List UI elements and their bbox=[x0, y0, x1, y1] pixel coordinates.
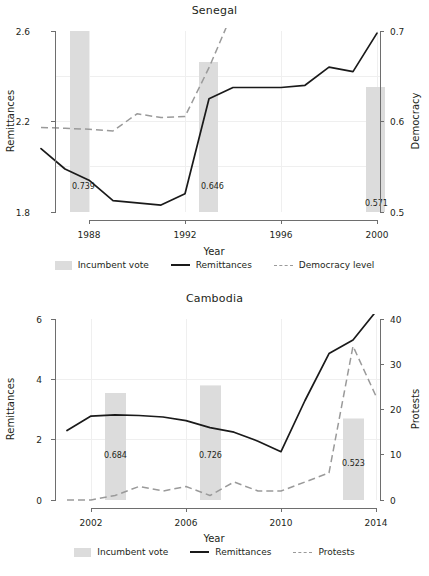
senegal-ytick2-0-5: 0.5 bbox=[390, 208, 404, 218]
panel-cambodia: Cambodia bbox=[0, 288, 429, 576]
legend-item-incumbent-vote: Incumbent vote bbox=[74, 547, 168, 557]
cambodia-xtick-2010: 2010 bbox=[270, 518, 293, 528]
legend-item-remittances: Remittances bbox=[171, 260, 252, 270]
dashed-line-swatch-icon bbox=[274, 265, 293, 266]
bar-2007 bbox=[200, 385, 221, 500]
cambodia-ytick-2: 2 bbox=[36, 435, 42, 445]
bar-label-2007: 0.726 bbox=[199, 451, 222, 460]
legend-label-remittances: Remittances bbox=[196, 260, 252, 270]
cambodia-legend: Incumbent vote Remittances Protests bbox=[0, 547, 429, 557]
senegal-xlabel: Year bbox=[202, 246, 225, 255]
cambodia-ytick-6: 6 bbox=[36, 315, 42, 325]
cambodia-xtick-2014: 2014 bbox=[365, 518, 388, 528]
bar-2003 bbox=[105, 393, 126, 500]
senegal-ytick2-0-6: 0.6 bbox=[390, 117, 405, 127]
legend-item-remittances: Remittances bbox=[190, 547, 271, 557]
dashed-line-swatch-icon bbox=[293, 552, 312, 553]
senegal-xtick-1996: 1996 bbox=[270, 230, 293, 240]
solid-line-swatch-icon bbox=[171, 264, 190, 266]
cambodia-ytick2-30: 30 bbox=[390, 360, 402, 370]
bar-swatch-icon bbox=[55, 261, 72, 270]
cambodia-ytick2-0: 0 bbox=[390, 496, 396, 506]
senegal-left-axis: 2.6 2.2 1.8 bbox=[16, 27, 55, 218]
figure-root: Senegal bbox=[0, 0, 429, 576]
legend-item-incumbent-vote: Incumbent vote bbox=[55, 260, 149, 270]
bar-label-1988: 0.739 bbox=[72, 182, 95, 191]
senegal-ytick-2-6: 2.6 bbox=[16, 27, 31, 37]
bar-label-2000: 0.571 bbox=[365, 199, 388, 208]
senegal-ylabel-right: Democracy bbox=[410, 92, 421, 149]
senegal-xtick-1988: 1988 bbox=[78, 230, 101, 240]
cambodia-incumbent-bars bbox=[105, 385, 364, 500]
legend-label-protests: Protests bbox=[318, 547, 354, 557]
legend-item-democracy-level: Democracy level bbox=[274, 260, 374, 270]
senegal-xtick-1992: 1992 bbox=[174, 230, 197, 240]
legend-label-democracy-level: Democracy level bbox=[299, 260, 374, 270]
bar-label-2013: 0.523 bbox=[342, 459, 365, 468]
legend-label-remittances: Remittances bbox=[215, 547, 271, 557]
cambodia-ylabel-right: Protests bbox=[410, 389, 421, 429]
legend-label-incumbent-vote: Incumbent vote bbox=[97, 547, 168, 557]
cambodia-ytick-0: 0 bbox=[36, 496, 42, 506]
cambodia-x-axis: 2002 2006 2010 2014 bbox=[80, 508, 388, 528]
senegal-ytick-1-8: 1.8 bbox=[16, 208, 31, 218]
bar-label-1993: 0.646 bbox=[201, 182, 224, 191]
cambodia-ylabel-left: Remittances bbox=[5, 378, 16, 440]
cambodia-ytick2-20: 20 bbox=[390, 405, 402, 415]
cambodia-xtick-2002: 2002 bbox=[80, 518, 103, 528]
senegal-ytick-2-2: 2.2 bbox=[16, 117, 30, 127]
bar-label-2003: 0.684 bbox=[104, 451, 127, 460]
senegal-xtick-2000: 2000 bbox=[366, 230, 389, 240]
senegal-x-axis: 1988 1992 1996 2000 bbox=[78, 220, 389, 240]
bar-swatch-icon bbox=[74, 548, 91, 557]
cambodia-plot: 0.684 0.726 0.523 6 4 2 0 40 30 bbox=[0, 288, 429, 543]
cambodia-ytick2-10: 10 bbox=[390, 450, 402, 460]
legend-item-protests: Protests bbox=[293, 547, 354, 557]
cambodia-left-axis: 6 4 2 0 bbox=[36, 315, 55, 506]
cambodia-xtick-2006: 2006 bbox=[175, 518, 198, 528]
legend-label-incumbent-vote: Incumbent vote bbox=[78, 260, 149, 270]
cambodia-xlabel: Year bbox=[202, 533, 225, 543]
senegal-ylabel-left: Remittances bbox=[5, 90, 16, 152]
panel-senegal: Senegal bbox=[0, 0, 429, 288]
solid-line-swatch-icon bbox=[190, 551, 209, 553]
cambodia-ytick2-40: 40 bbox=[390, 315, 402, 325]
bar-2000 bbox=[366, 87, 385, 212]
senegal-ytick2-0-7: 0.7 bbox=[390, 27, 404, 37]
senegal-legend: Incumbent vote Remittances Democracy lev… bbox=[0, 260, 429, 270]
senegal-plot: 0.739 0.646 0.571 2.6 2.2 1.8 0.7 0.6 0.… bbox=[0, 0, 429, 255]
cambodia-right-axis: 40 30 20 10 0 bbox=[380, 315, 402, 506]
cambodia-ytick-4: 4 bbox=[36, 375, 42, 385]
